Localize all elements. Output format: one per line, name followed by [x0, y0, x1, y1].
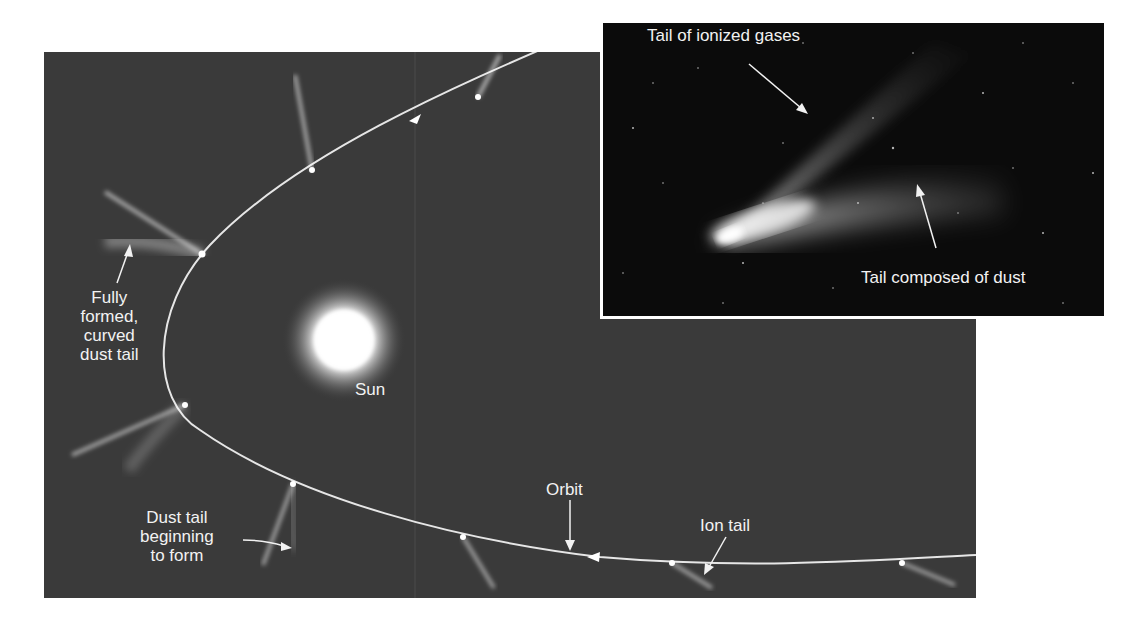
- label-line: Dust tail: [140, 508, 214, 527]
- dust-tail-label: Tail composed of dust: [861, 268, 1025, 287]
- comet-diagram: Fully formed, curved dust tail Sun Dust …: [0, 0, 1131, 632]
- label-line: formed,: [80, 307, 139, 326]
- comet-photo-inset: Tail of ionized gases Tail composed of d…: [600, 20, 1107, 319]
- comet-icon: [295, 75, 315, 173]
- pointer-arrow-icon: [117, 244, 133, 283]
- label-line: dust tail: [80, 345, 139, 364]
- comet-photo-illustration: [603, 23, 1104, 316]
- label-line: Fully: [80, 288, 139, 307]
- fully-formed-dust-tail-label: Fully formed, curved dust tail: [80, 288, 139, 364]
- pointer-arrow-icon: [749, 64, 808, 114]
- comet-icon: [460, 534, 494, 588]
- label-line: curved: [80, 326, 139, 345]
- orbit-direction-arrow-icon: [587, 552, 600, 562]
- comet-icon: [899, 560, 955, 585]
- pointer-arrow-icon: [565, 500, 575, 551]
- pointer-arrow-icon: [704, 537, 726, 575]
- comet-icon: [263, 481, 296, 565]
- comet-icon: [105, 192, 206, 258]
- ion-tail-label: Ion tail: [700, 516, 750, 535]
- dust-tail-beginning-label: Dust tail beginning to form: [140, 508, 214, 565]
- comet-photo: Tail of ionized gases Tail composed of d…: [603, 23, 1104, 316]
- label-line: to form: [140, 546, 214, 565]
- stars: [622, 42, 1094, 304]
- sun-icon: [282, 278, 406, 402]
- comet-icon: [72, 402, 188, 470]
- orbit-label: Orbit: [546, 480, 583, 499]
- label-line: beginning: [140, 527, 214, 546]
- ionized-gases-label: Tail of ionized gases: [647, 26, 800, 45]
- sun-label: Sun: [355, 380, 385, 399]
